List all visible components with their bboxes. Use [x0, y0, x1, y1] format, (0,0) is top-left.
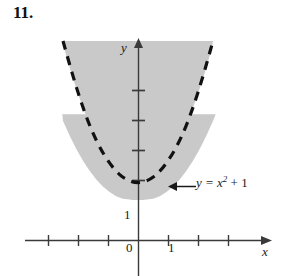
- x-axis-label: x: [262, 245, 268, 258]
- graph-figure: [0, 0, 282, 276]
- curve-equation-label: y = x2 + 1: [196, 176, 248, 189]
- y-intercept-tick-label: 1: [124, 208, 131, 221]
- curve-equation-tail: + 1: [227, 175, 247, 190]
- origin-label: 0: [126, 241, 133, 254]
- x-axis: [25, 236, 272, 245]
- y-axis-label: y: [121, 41, 127, 54]
- x-tick-label-one: 1: [168, 241, 175, 254]
- figure-page: 11.: [0, 0, 282, 276]
- curve-equation-base: y = x: [196, 175, 223, 190]
